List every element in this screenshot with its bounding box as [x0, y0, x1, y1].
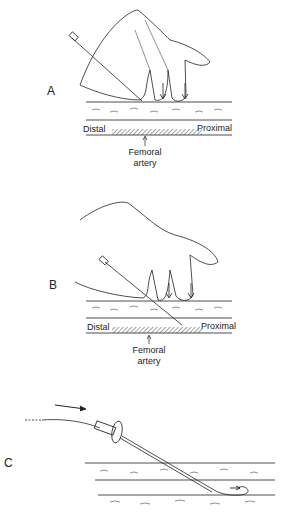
distal-label-a: Distal — [83, 124, 106, 134]
distal-label-b: Distal — [87, 322, 110, 332]
panel-c-drawing — [25, 405, 275, 504]
panel-label-a: A — [47, 84, 55, 98]
vessel-label-a-line2: artery — [115, 158, 175, 168]
vessel-label-a-line1: Femoral — [115, 147, 175, 157]
proximal-label-b: Proximal — [201, 321, 236, 331]
panel-label-c: C — [4, 456, 13, 470]
panel-label-b: B — [49, 278, 57, 292]
proximal-label-a: Proximal — [197, 123, 232, 133]
illustration-canvas — [0, 0, 292, 518]
vessel-label-b-line1: Femoral — [119, 345, 179, 355]
vessel-label-b-line2: artery — [119, 356, 179, 366]
